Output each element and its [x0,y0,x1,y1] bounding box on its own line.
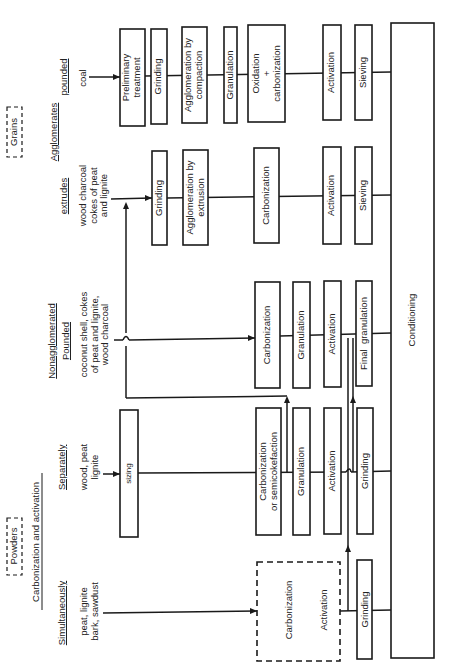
row5-feed: peat, lignitebark, sawdust [79,579,100,644]
feed-line: wood, peat [78,444,89,490]
step-label: Grinding [154,151,165,245]
step-label-line: extrusion [195,178,206,217]
step-label: Granulation [296,408,307,535]
feed-line: and lignite [98,174,109,217]
step-label: Activation [327,408,338,534]
step-label: Activation [326,25,337,120]
step-label-line: compaction [193,51,204,100]
step-label-line: Agglomeration by [184,161,195,235]
row4-feed: wood, peatlignite [79,442,100,492]
step-label: Agglomeration bycompaction [183,27,204,123]
step-label: Sieving [358,147,369,244]
step-label-line: + [261,71,272,77]
feed-line: of peat and lignite, [89,296,100,374]
feed-line: lignite [89,455,100,480]
step-label-line: Oxidation [250,53,261,93]
arrow-icon [113,74,120,80]
row1-feed: coal [78,66,89,90]
step-label-line: Carbonization [257,442,268,501]
carbonization-activation-heading: Carbonization and activation [31,472,42,612]
step-label: sizing [124,410,135,537]
powders-legend: Powders [9,521,20,571]
feed-line: coconut shell, cokes [78,292,89,378]
conditioning-label: Conditioning [407,260,418,380]
step-label: Agglomeration byextrusion [185,150,206,245]
row3-feed: coconut shell, cokesof peat and lignite,… [79,287,111,382]
step-label: Activation [326,147,337,244]
row2-category: extrudes [59,175,70,217]
step-label-line: Preliminary [120,54,131,102]
step-label: Sieving [358,25,369,120]
step-label-line: carbonization [271,45,282,102]
step-label: Final granulation [359,281,370,386]
nonagglomerated-heading: Nonagglomerated [47,297,58,385]
step-label: Carbonizationor semicokefaction [258,408,279,535]
feed-line: peat, lignite [78,587,89,636]
step-label: Granulation [296,282,307,388]
row4-category: Separately [57,446,68,490]
step-label: Granulation [225,27,236,123]
feed-line: bark, sawdust [89,582,100,641]
step-label: Grinding [153,29,164,124]
row1-category: pounded [59,56,70,98]
row3-category: Pounded [61,320,72,362]
agglomerates-heading: Agglomerates [49,97,60,167]
grains-legend: Grains [9,112,20,152]
step-label: Carbonization [262,282,273,388]
row2-feed: wood charcoalcokes of peatand lignite [78,158,110,233]
step-label-line: Agglomeration by [182,38,193,112]
feed-line: wood charcoal [77,165,88,226]
step-label: Carbonization [284,565,295,655]
row5-category: Simultaneously [57,569,68,657]
step-label: Activation [319,570,330,650]
step-label: Grinding [360,408,371,534]
process-flow-diagram: Grains Powders Agglomerates Nonagglomera… [0,0,451,671]
step-label-line: treatment [131,57,142,97]
step-label-line: or semicokefaction [268,432,279,511]
step-label: Oxidation+carbonization [251,25,283,122]
feed-line: cokes of peat [88,167,99,224]
step-label: Carbonization [261,148,272,243]
step-label: Preliminarytreatment [121,29,142,126]
step-label: Activation [327,281,338,387]
feed-line: wood charcoal [99,304,110,365]
step-label: Grinding [360,560,371,659]
